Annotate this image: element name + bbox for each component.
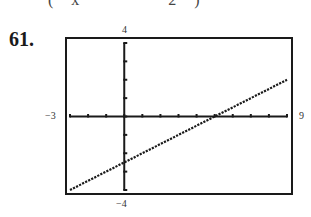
graph-window (0, 0, 311, 217)
axes (70, 43, 287, 190)
series-line (70, 80, 287, 190)
